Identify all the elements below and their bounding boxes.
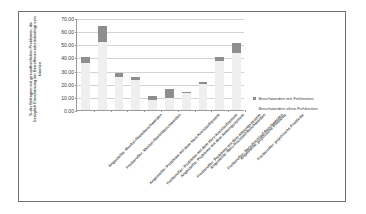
legend-label: Beschwerden mit Fehlzeiten bbox=[259, 96, 314, 101]
chart-legend: Beschwerden mit FehlzeitenBeschwerden oh… bbox=[253, 96, 345, 116]
legend-color-swatch bbox=[253, 107, 256, 110]
legend-label: Beschwerden ohne Fehlzeiten bbox=[259, 106, 318, 111]
legend-color-swatch bbox=[253, 97, 256, 100]
chart-area: %-der Befragten mit gesundheitlichen Pro… bbox=[19, 12, 345, 201]
legend-item: Beschwerden mit Fehlzeiten bbox=[253, 96, 345, 101]
legend-item: Beschwerden ohne Fehlzeiten bbox=[253, 106, 345, 111]
chart-frame: %-der Befragten mit gesundheitlichen Pro… bbox=[18, 11, 346, 202]
